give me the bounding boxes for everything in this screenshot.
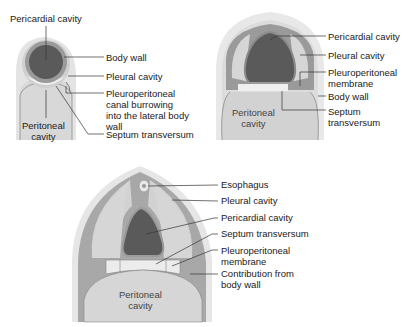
panel-b-label-pleural-cavity: Pleural cavity [328, 50, 385, 61]
panel-b-label-peritoneal-line2: cavity [232, 118, 275, 129]
panel-c-label-peritoneal-cavity: Peritoneal cavity [119, 289, 162, 311]
panel-a-label-peritoneal-cavity: Peritoneal cavity [22, 120, 65, 142]
panel-c-label-contribution-line1: Contribution from [221, 268, 294, 279]
panel-b-label-body-wall: Body wall [328, 91, 369, 102]
panel-c-label-pleural-cavity: Pleural cavity [221, 195, 278, 206]
panel-a-label-body-wall: Body wall [106, 52, 147, 63]
panel-b-label-pp-membrane: Pleuroperitoneal membrane [328, 67, 397, 89]
panel-c-label-esophagus: Esophagus [221, 179, 269, 190]
panel-b-label-septum-transversum: Septum transversum [328, 106, 380, 128]
panel-a-label-pericardial-cavity: Pericardial cavity [10, 13, 82, 24]
panel-a-label-pleural-cavity: Pleural cavity [106, 71, 163, 82]
panel-b-label-septum-line1: Septum [328, 106, 380, 117]
panel-b-label-peritoneal-cavity: Peritoneal cavity [232, 107, 275, 129]
panel-c-label-pericardial-cavity: Pericardial cavity [221, 212, 293, 223]
panel-b-label-septum-line2: transversum [328, 117, 380, 128]
panel-b-label-pericardial-cavity: Pericardial cavity [328, 31, 400, 42]
panel-c-label-peritoneal-line2: cavity [119, 300, 162, 311]
panel-c-label-peritoneal-line1: Peritoneal [119, 289, 162, 300]
panel-c-label-contribution-line2: body wall [221, 279, 294, 290]
panel-a-label-pp-canal-line3: into the lateral body [106, 110, 189, 121]
panel-a-label-pp-canal-line2: canal burrowing [106, 99, 189, 110]
panel-b-label-pp-membrane-line2: membrane [328, 78, 397, 89]
panel-c-label-pp-membrane-line1: Pleuroperitoneal [221, 245, 290, 256]
panel-c-label-pp-membrane: Pleuroperitoneal membrane [221, 245, 290, 267]
panel-b-label-peritoneal-line1: Peritoneal [232, 107, 275, 118]
panel-c-label-pp-membrane-line2: membrane [221, 256, 290, 267]
panel-a-label-peritoneal-line1: Peritoneal [22, 120, 65, 131]
panel-c-label-contribution-body-wall: Contribution from body wall [221, 268, 294, 290]
panel-a-label-septum-transversum: Septum transversum [106, 129, 194, 140]
panel-a-label-peritoneal-line2: cavity [22, 131, 65, 142]
panel-a-label-pp-canal: Pleuroperitoneal canal burrowing into th… [106, 88, 189, 132]
panel-b-label-pp-membrane-line1: Pleuroperitoneal [328, 67, 397, 78]
panel-a-label-pp-canal-line1: Pleuroperitoneal [106, 88, 189, 99]
panel-c-label-septum-transversum: Septum transversum [221, 228, 309, 239]
